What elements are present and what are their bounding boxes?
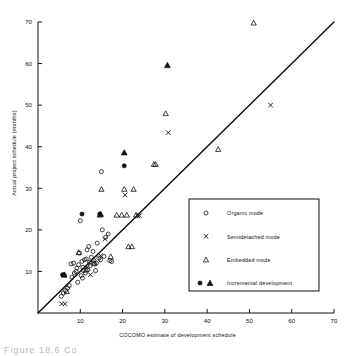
data-point-series-0 [69, 262, 73, 266]
y-tick-label-10: 10 [25, 268, 32, 275]
data-point-series-0 [95, 241, 99, 245]
x-tick-label-20: 20 [119, 317, 126, 324]
x-tick-label-40: 40 [204, 317, 211, 324]
data-point-series-2 [99, 187, 104, 192]
data-point-series-0 [106, 232, 110, 236]
x-axis-title: COCOMO estimate of development schedule [0, 332, 355, 338]
data-point-series-0 [77, 263, 81, 267]
figure-caption: Figure 18.6 Co [4, 345, 78, 355]
data-point-series-0 [94, 269, 98, 273]
plot-canvas: 1020304050607010203040506070Organic mode… [0, 0, 355, 356]
legend-label-1: Semidetached mode [227, 234, 280, 240]
y-tick-label-20: 20 [25, 226, 32, 233]
data-point-series-2 [124, 212, 129, 217]
y-tick-label-50: 50 [25, 101, 32, 108]
figure-scatter-cocomo: 1020304050607010203040506070Organic mode… [0, 0, 355, 356]
data-point-series-3 [80, 212, 84, 216]
x-tick-label-30: 30 [161, 317, 168, 324]
data-point-series-2 [114, 212, 119, 217]
x-tick-label-60: 60 [288, 317, 295, 324]
legend-label-0: Organic mode [227, 210, 263, 216]
data-point-series-2 [119, 212, 124, 217]
data-point-series-0 [100, 228, 104, 232]
data-point-series-2 [163, 111, 168, 116]
data-point-series-0 [70, 275, 74, 279]
y-tick-label-40: 40 [25, 143, 32, 150]
data-point-series-3 [122, 164, 126, 168]
data-point-series-2 [131, 187, 136, 192]
data-point-series-2 [251, 20, 256, 25]
data-point-series-2 [76, 250, 81, 255]
data-point-series-0 [78, 219, 82, 223]
x-tick-label-50: 50 [246, 317, 253, 324]
data-point-series-0 [85, 248, 89, 252]
y-tick-label-70: 70 [25, 18, 32, 25]
data-point-series-0 [76, 280, 80, 284]
data-point-series-0 [99, 170, 103, 174]
y-axis-title: Actual project schedule (months) [11, 73, 17, 233]
x-tick-label-70: 70 [331, 317, 338, 324]
x-tick-label-10: 10 [77, 317, 84, 324]
y-tick-label-30: 30 [25, 185, 32, 192]
legend-label-3: Incremental development [227, 280, 292, 286]
data-point-series-2 [122, 187, 127, 192]
data-point-series-3 [121, 150, 127, 155]
data-point-series-0 [91, 249, 95, 253]
data-point-series-3 [165, 62, 171, 67]
data-point-series-0 [72, 261, 76, 265]
y-tick-label-60: 60 [25, 60, 32, 67]
data-point-series-2 [108, 254, 113, 259]
data-point-series-2 [216, 147, 221, 152]
legend-label-2: Embedded mode [227, 257, 271, 263]
legend-marker-3 [198, 281, 202, 285]
